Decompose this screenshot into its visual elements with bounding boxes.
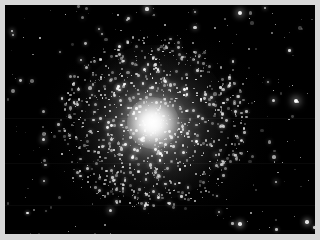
star-point — [220, 131, 222, 133]
star-point — [140, 202, 143, 205]
star-point — [170, 160, 173, 163]
star-point — [73, 125, 74, 126]
star-point — [43, 159, 46, 162]
star-point — [182, 124, 183, 125]
star-point — [115, 200, 118, 203]
star-point — [45, 133, 46, 134]
star-point — [101, 33, 103, 35]
star-point — [183, 163, 184, 164]
star-point — [242, 99, 245, 102]
star-point — [88, 13, 89, 14]
star-point — [109, 145, 111, 147]
star-point — [85, 137, 86, 138]
star-point — [220, 111, 222, 113]
star-point — [168, 89, 171, 92]
star-point — [127, 130, 128, 131]
star-point — [114, 77, 116, 79]
star-point — [143, 160, 145, 162]
star-point — [262, 211, 263, 212]
star-point — [188, 192, 190, 194]
star-point — [73, 181, 74, 182]
star-point — [19, 154, 20, 155]
star-point — [98, 79, 99, 80]
star-point — [98, 146, 100, 148]
star-point — [42, 126, 44, 128]
star-point — [245, 116, 247, 118]
star-point — [119, 200, 121, 202]
star-point — [105, 170, 107, 172]
star-point — [158, 146, 159, 147]
star-point — [148, 105, 149, 106]
star-point — [89, 130, 92, 133]
star-point — [137, 89, 139, 91]
star-point — [74, 103, 76, 105]
star-point — [107, 192, 110, 195]
star-point — [180, 131, 182, 133]
star-point — [190, 65, 191, 66]
star-point — [148, 195, 150, 197]
star-point — [64, 130, 66, 132]
star-point — [90, 80, 91, 81]
star-point — [16, 131, 17, 132]
star-point — [248, 67, 250, 69]
star-point — [105, 116, 106, 117]
star-point — [288, 119, 290, 121]
star-point — [77, 5, 79, 7]
star-point — [88, 131, 90, 133]
star-point — [196, 95, 198, 97]
star-point — [268, 140, 271, 143]
star-point — [217, 123, 219, 125]
star-point — [169, 38, 172, 41]
star-point — [161, 127, 162, 128]
star-point — [127, 41, 129, 43]
star-point — [222, 102, 225, 105]
bright-star — [194, 11, 196, 13]
star-point — [154, 170, 155, 171]
star-point — [73, 101, 76, 104]
star-point — [171, 50, 174, 53]
star-point — [204, 187, 206, 189]
star-point — [87, 176, 89, 178]
star-point — [101, 145, 104, 148]
star-point — [179, 168, 181, 170]
star-point — [129, 184, 132, 187]
star-point — [211, 138, 212, 139]
star-point — [145, 75, 148, 78]
star-point — [156, 176, 159, 179]
star-point — [163, 47, 166, 50]
star-point — [129, 163, 131, 165]
star-point — [187, 125, 188, 126]
star-point — [228, 77, 231, 80]
star-point — [113, 124, 116, 127]
star-point — [111, 137, 112, 138]
star-point — [160, 101, 162, 103]
star-point — [122, 60, 125, 63]
star-point — [86, 98, 87, 99]
star-point — [207, 86, 209, 88]
star-point — [172, 104, 175, 107]
star-point — [185, 73, 188, 76]
star-point — [149, 93, 152, 96]
star-point — [79, 146, 81, 148]
star-point — [157, 48, 160, 51]
star-point — [157, 70, 160, 73]
star-point — [139, 124, 141, 126]
star-point — [140, 181, 141, 182]
star-point — [68, 117, 69, 118]
star-point — [161, 142, 162, 143]
star-point — [202, 197, 203, 198]
star-point — [222, 161, 225, 164]
star-point — [202, 62, 205, 65]
star-point — [145, 92, 146, 93]
star-point — [93, 173, 95, 175]
star-point — [72, 154, 73, 155]
star-point — [118, 53, 121, 56]
star-point — [152, 77, 154, 79]
star-point — [192, 155, 194, 157]
star-point — [225, 144, 227, 146]
star-point — [192, 109, 195, 112]
star-point — [221, 78, 224, 81]
star-point — [132, 195, 133, 196]
star-point — [294, 140, 295, 141]
star-point — [235, 158, 236, 159]
